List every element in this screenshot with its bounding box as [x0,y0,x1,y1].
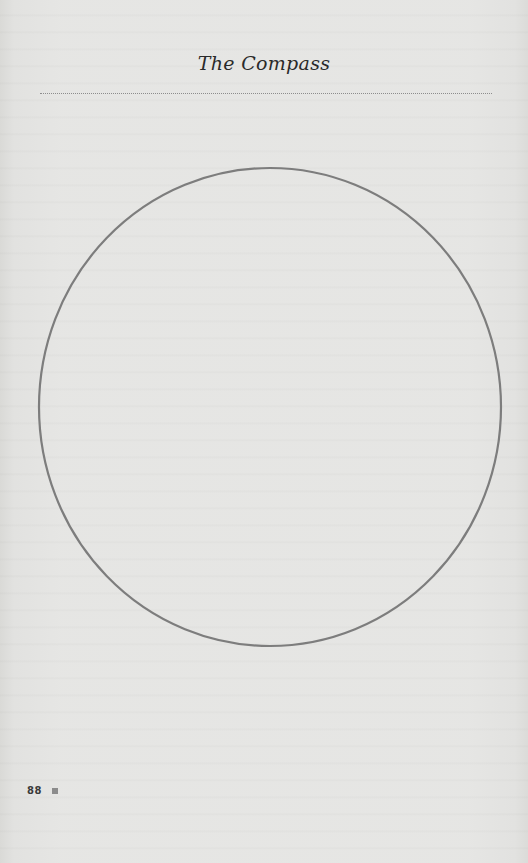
compass-circle [39,168,501,646]
compass-circle-figure [0,0,528,863]
folio: 88 [27,785,58,796]
folio-square-icon [52,788,58,794]
page-number: 88 [27,785,42,796]
